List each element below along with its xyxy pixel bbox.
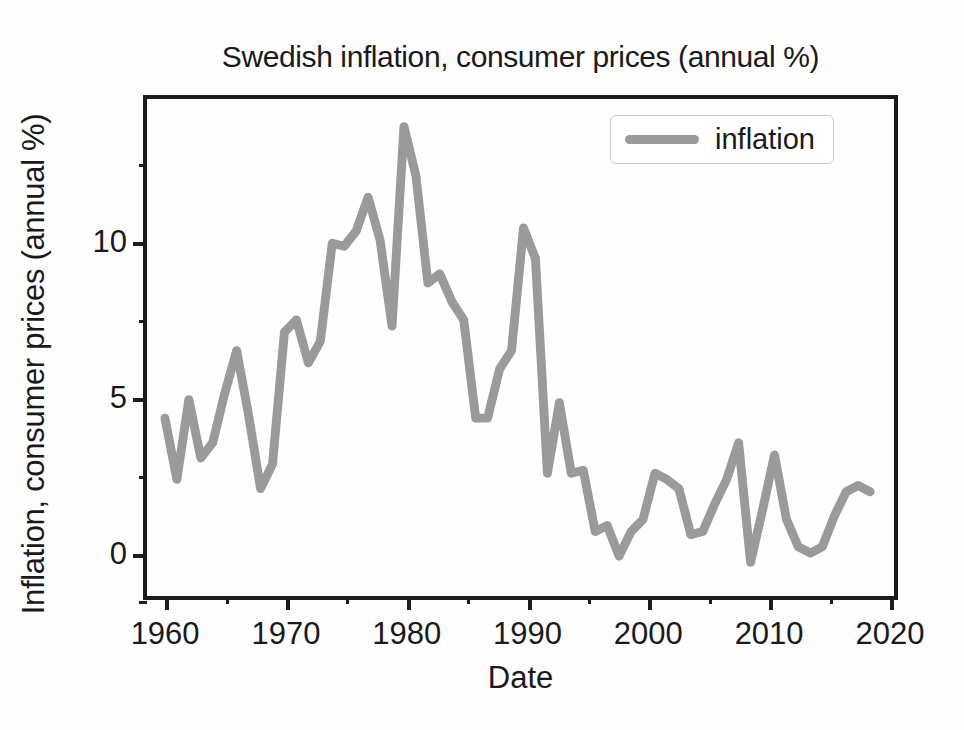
x-tick (528, 596, 532, 610)
y-tick-label: 0 (110, 536, 127, 572)
x-tick (407, 596, 411, 610)
x-tick (286, 596, 290, 610)
x-tick-label: 1990 (493, 616, 562, 652)
x-tick-label: 2020 (855, 616, 924, 652)
y-tick (133, 398, 147, 402)
plot-area: 05101960197019801990200020102020 (143, 95, 898, 600)
x-tick-minor (226, 596, 229, 604)
x-tick-label: 2000 (614, 616, 683, 652)
y-tick-minor (139, 164, 147, 167)
x-tick (648, 596, 652, 610)
x-axis-title: Date (143, 660, 898, 696)
y-tick-minor (139, 320, 147, 323)
x-tick-minor (346, 596, 349, 604)
x-tick-label: 2010 (735, 616, 804, 652)
x-tick-label: 1980 (372, 616, 441, 652)
x-tick-minor (830, 596, 833, 604)
x-tick-label: 1970 (251, 616, 320, 652)
chart-title: Swedish inflation, consumer prices (annu… (143, 40, 898, 74)
x-tick-label: 1960 (131, 616, 200, 652)
x-tick-minor (588, 596, 591, 604)
x-tick-minor (709, 596, 712, 604)
legend: inflation (610, 115, 834, 164)
y-tick-label: 10 (93, 224, 127, 260)
legend-label-inflation: inflation (715, 125, 815, 154)
y-tick-minor (139, 476, 147, 479)
y-tick (133, 554, 147, 558)
chart-figure: Inflation, consumer prices (annual %) Sw… (0, 0, 964, 730)
y-tick-minor (139, 601, 147, 604)
y-tick-label: 5 (110, 380, 127, 416)
y-tick (133, 242, 147, 246)
x-tick (890, 596, 894, 610)
x-tick-minor (467, 596, 470, 604)
x-tick (769, 596, 773, 610)
legend-line-swatch (625, 135, 699, 144)
y-axis-title: Inflation, consumer prices (annual %) (6, 14, 62, 714)
x-tick (165, 596, 169, 610)
series-inflation (147, 99, 894, 596)
